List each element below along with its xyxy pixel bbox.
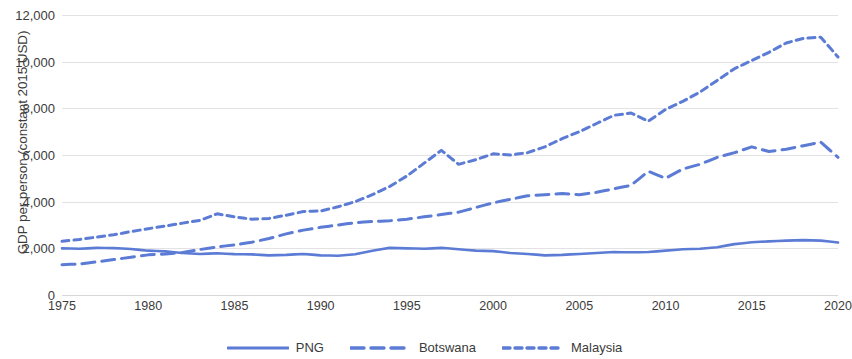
y-tick-label: 6,000 [0, 148, 55, 163]
y-tick-label: 0 [0, 288, 55, 303]
y-tick-label: 8,000 [0, 101, 55, 116]
series-line-png [62, 240, 838, 256]
x-tick-label: 1980 [134, 299, 162, 313]
legend-label: PNG [296, 340, 324, 355]
legend-label: Botswana [419, 340, 476, 355]
x-tick-label: 1975 [48, 299, 76, 313]
gridline [62, 295, 838, 296]
x-tick-label: 1990 [307, 299, 335, 313]
series-line-malaysia [62, 37, 838, 241]
legend-label: Malaysia [571, 340, 622, 355]
x-tick-label: 2020 [824, 299, 852, 313]
series-lines [62, 15, 838, 295]
x-tick-label: 2000 [479, 299, 507, 313]
y-tick-label: 12,000 [0, 8, 55, 23]
x-tick-label: 1985 [221, 299, 249, 313]
legend-item-png[interactable]: PNG [227, 340, 324, 355]
legend-swatch-botswana [350, 343, 412, 353]
y-tick-label: 10,000 [0, 54, 55, 69]
plot-area [62, 15, 838, 295]
x-tick-label: 1995 [393, 299, 421, 313]
legend-item-malaysia[interactable]: Malaysia [502, 340, 622, 355]
x-tick-label: 2005 [565, 299, 593, 313]
x-tick-label: 2015 [738, 299, 766, 313]
x-axis-tick-labels: 1975198019851990199520002005201020152020 [62, 299, 838, 321]
legend-swatch-malaysia [502, 343, 564, 353]
x-tick-label: 2010 [652, 299, 680, 313]
y-tick-label: 2,000 [0, 241, 55, 256]
legend-swatch-png [227, 343, 289, 353]
chart-legend: PNGBotswanaMalaysia [0, 340, 849, 355]
y-tick-label: 4,000 [0, 194, 55, 209]
legend-item-botswana[interactable]: Botswana [350, 340, 476, 355]
